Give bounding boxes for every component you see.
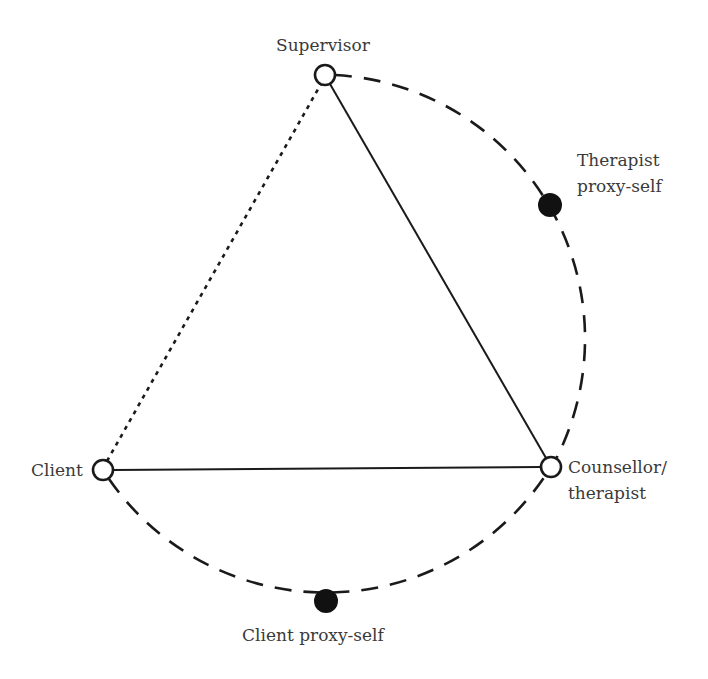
label-counsellor-line2: therapist (568, 481, 646, 505)
edge-client-counsellor (113, 467, 541, 470)
triangle-diagram: Supervisor Client Counsellor/ therapist … (0, 0, 708, 679)
edge-client-supervisor (107, 84, 321, 461)
node-therapist-proxy (538, 193, 562, 217)
label-client: Client (31, 458, 83, 482)
label-client-proxy: Client proxy-self (242, 623, 384, 647)
label-therapist-proxy-line2: proxy-self (577, 174, 662, 198)
node-client (93, 460, 113, 480)
arc-client-counsellor (109, 476, 545, 593)
label-therapist-proxy-line1: Therapist (577, 148, 660, 172)
node-client-proxy (314, 589, 338, 613)
node-supervisor (315, 65, 335, 85)
node-counsellor (541, 457, 561, 477)
edge-supervisor-counsellor (330, 84, 546, 458)
label-supervisor: Supervisor (276, 33, 370, 57)
arc-supervisor-counsellor (335, 75, 585, 459)
diagram-graphics (0, 0, 708, 679)
label-counsellor-line1: Counsellor/ (568, 455, 667, 479)
